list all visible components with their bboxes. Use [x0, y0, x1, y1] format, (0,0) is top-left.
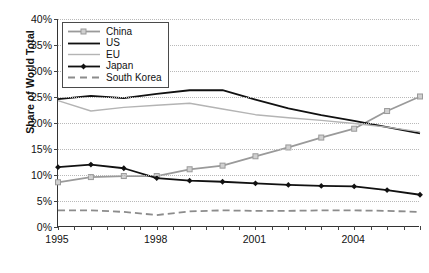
data-point-marker	[417, 192, 423, 198]
y-tick-mark	[54, 175, 58, 176]
legend-item-japan[interactable]: Japan	[67, 61, 162, 73]
x-tick-mark	[321, 226, 322, 230]
x-tick-label: 1995	[37, 234, 77, 245]
y-tick-label: 15%	[16, 144, 52, 155]
x-tick-mark	[190, 226, 191, 230]
data-point-marker	[220, 163, 225, 168]
grid-line	[58, 19, 419, 20]
y-tick-mark	[54, 71, 58, 72]
data-point-marker	[187, 178, 193, 184]
data-point-marker	[55, 164, 61, 170]
y-tick-label: 25%	[16, 92, 52, 103]
data-point-marker	[88, 162, 94, 168]
series-line-eu	[58, 101, 420, 132]
legend-swatch	[67, 38, 101, 49]
y-tick-label: 0%	[16, 222, 52, 233]
y-tick-label: 10%	[16, 170, 52, 181]
x-tick-mark	[173, 226, 174, 230]
line-chart: Share of World Total 0%5%10%15%20%25%30%…	[0, 0, 429, 273]
data-point-marker	[56, 180, 61, 185]
legend: ChinaUSEUJapanSouth Korea	[62, 22, 169, 88]
x-tick-mark	[206, 226, 207, 230]
legend-label: South Korea	[106, 73, 162, 83]
legend-swatch	[67, 26, 101, 37]
x-tick-mark	[124, 226, 125, 230]
legend-swatch	[67, 61, 101, 72]
legend-item-eu[interactable]: EU	[67, 49, 162, 61]
x-tick-label: 2001	[234, 234, 274, 245]
x-tick-mark	[74, 226, 75, 230]
x-tick-mark	[58, 226, 59, 230]
data-point-marker	[319, 135, 324, 140]
data-point-marker	[385, 109, 390, 114]
grid-line	[58, 149, 419, 150]
legend-label: US	[106, 38, 120, 48]
grid-line	[58, 97, 419, 98]
data-point-marker	[352, 126, 357, 131]
x-tick-mark	[140, 226, 141, 230]
x-tick-mark	[91, 226, 92, 230]
data-point-marker	[351, 184, 357, 190]
y-tick-mark	[54, 149, 58, 150]
y-tick-mark	[54, 123, 58, 124]
y-tick-mark	[54, 19, 58, 20]
x-tick-mark	[239, 226, 240, 230]
y-tick-label: 40%	[16, 14, 52, 25]
x-tick-mark	[354, 226, 355, 230]
x-tick-mark	[272, 226, 273, 230]
data-point-marker	[187, 167, 192, 172]
series-line-south-korea	[58, 210, 420, 215]
y-tick-mark	[54, 97, 58, 98]
grid-line	[58, 175, 419, 176]
legend-swatch	[67, 49, 101, 60]
x-tick-mark	[338, 226, 339, 230]
x-tick-mark	[420, 226, 421, 230]
grid-line	[58, 201, 419, 202]
x-tick-mark	[404, 226, 405, 230]
data-point-marker	[121, 165, 127, 171]
series-line-japan	[58, 165, 420, 195]
data-point-marker	[253, 154, 258, 159]
x-tick-label: 2004	[333, 234, 373, 245]
data-point-marker	[253, 180, 259, 186]
x-tick-mark	[107, 226, 108, 230]
x-tick-mark	[305, 226, 306, 230]
legend-label: Japan	[106, 61, 133, 71]
y-tick-mark	[54, 45, 58, 46]
legend-item-china[interactable]: China	[67, 26, 162, 38]
x-tick-mark	[157, 226, 158, 230]
x-tick-mark	[387, 226, 388, 230]
y-tick-mark	[54, 201, 58, 202]
legend-swatch	[67, 72, 101, 83]
legend-label: EU	[106, 50, 120, 60]
x-tick-mark	[223, 226, 224, 230]
legend-item-south-korea[interactable]: South Korea	[67, 72, 162, 84]
y-tick-label: 30%	[16, 66, 52, 77]
legend-item-us[interactable]: US	[67, 38, 162, 50]
y-tick-label: 20%	[16, 118, 52, 129]
data-point-marker	[318, 183, 324, 189]
x-tick-mark	[255, 226, 256, 230]
data-point-marker	[285, 182, 291, 188]
x-tick-mark	[371, 226, 372, 230]
y-tick-label: 5%	[16, 196, 52, 207]
y-tick-label: 35%	[16, 40, 52, 51]
x-tick-mark	[288, 226, 289, 230]
x-tick-label: 1998	[136, 234, 176, 245]
legend-label: China	[106, 27, 132, 37]
data-point-marker	[220, 179, 226, 185]
grid-line	[58, 123, 419, 124]
data-point-marker	[384, 187, 390, 193]
